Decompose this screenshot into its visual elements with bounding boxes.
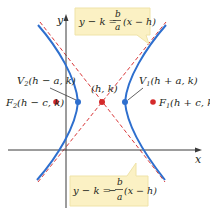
hyperbola-diagram: y x (h, k) V2(h − a, k) V1(h + a, k) F2(… (0, 0, 210, 211)
y-axis-arrow-icon (64, 14, 69, 21)
center-point (99, 99, 105, 105)
vertex-v1-point (122, 99, 128, 105)
vertex-v2-label: V2(h − a, k) (17, 75, 76, 88)
focus-f1-label: F1(h + c, k) (158, 97, 210, 110)
callout-bottom-rhs: (x − h) (124, 185, 157, 196)
asymptote-callout-bottom: y − k = − b a (x − h) (70, 163, 157, 206)
callout-bottom-numerator: b (117, 177, 123, 187)
focus-f1-point (150, 99, 156, 105)
x-axis-arrow-icon (195, 148, 202, 153)
focus-f2-label: F2(h − c, k) (5, 97, 64, 110)
callout-top-rhs: (x − h) (123, 16, 156, 27)
center-label: (h, k) (91, 83, 118, 94)
callout-bottom-lhs: y − k = (72, 185, 111, 196)
callout-bottom-denominator: a (117, 192, 122, 202)
x-axis-label: x (195, 153, 202, 166)
callout-top-lhs: y − k = (78, 16, 117, 27)
callout-bottom-sign: − (108, 185, 116, 196)
callout-top-numerator: b (115, 9, 121, 19)
vertex-v1-label: V1(h + a, k) (139, 75, 198, 88)
y-axis-label: y (56, 14, 64, 27)
v1-leader-line (128, 88, 143, 100)
asymptote-callout-top: y − k = b a (x − h) (75, 8, 156, 44)
callout-top-denominator: a (115, 22, 120, 32)
vertex-v2-point (75, 99, 81, 105)
